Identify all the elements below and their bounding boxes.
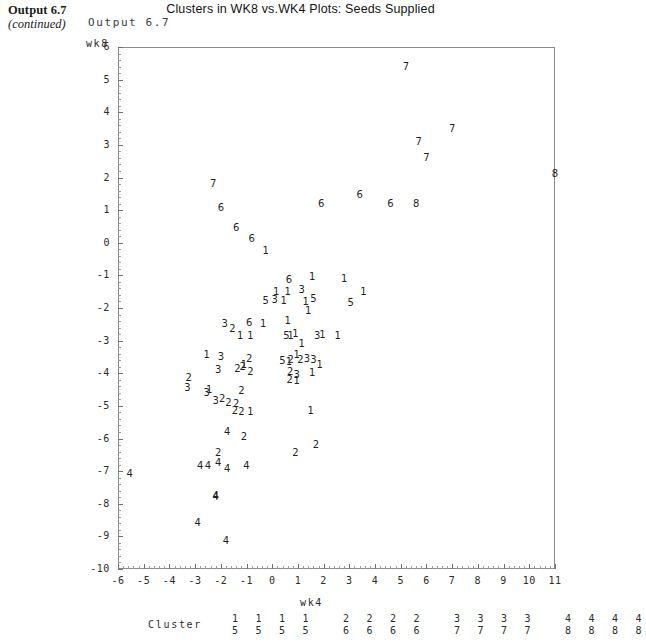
data-point: 6: [246, 318, 252, 328]
x-axis-minor-tick: [390, 566, 391, 569]
y-axis-minor-tick: [118, 367, 121, 368]
y-axis-minor-tick: [118, 217, 121, 218]
data-point: 1: [284, 316, 290, 326]
x-axis-minor-tick: [123, 566, 124, 569]
data-point: 3: [299, 285, 305, 295]
x-axis-minor-tick: [283, 566, 284, 569]
y-axis-minor-tick: [118, 223, 121, 224]
x-axis-tick: [349, 564, 350, 569]
data-point: 3: [310, 355, 316, 365]
y-axis-minor-tick: [118, 478, 121, 479]
x-axis-minor-tick: [185, 566, 186, 569]
y-axis-tick-label: 1: [78, 204, 110, 215]
x-axis-minor-tick: [509, 566, 510, 569]
y-axis-tick-label: -4: [78, 367, 110, 378]
data-point: 1: [335, 331, 341, 341]
cluster-legend-symbol-bottom: 8: [632, 625, 646, 637]
y-axis-minor-tick: [118, 204, 121, 205]
y-axis-minor-tick: [118, 132, 121, 133]
data-point: 1: [260, 319, 266, 329]
data-point: 1: [206, 385, 212, 395]
data-point: 1: [247, 331, 253, 341]
cluster-legend-entry: 15: [252, 613, 266, 637]
x-axis-tick-label: 0: [259, 575, 285, 586]
x-axis-tick-label: 5: [388, 575, 414, 586]
y-axis-minor-tick: [118, 106, 121, 107]
y-axis-minor-tick: [118, 393, 121, 394]
data-point: 1: [299, 339, 305, 349]
y-axis-minor-tick: [118, 184, 121, 185]
cluster-legend-symbol-top: 2: [410, 613, 424, 625]
cluster-legend-symbol-bottom: 6: [363, 625, 377, 637]
y-axis-tick: [118, 210, 123, 211]
cluster-legend-symbol-bottom: 6: [410, 625, 424, 637]
cluster-legend-symbol-bottom: 7: [474, 625, 488, 637]
y-axis-minor-tick: [118, 445, 121, 446]
x-axis-minor-tick: [288, 566, 289, 569]
x-axis-minor-tick: [360, 566, 361, 569]
y-axis-minor-tick: [118, 484, 121, 485]
x-axis-minor-tick: [365, 566, 366, 569]
x-axis-minor-tick: [303, 566, 304, 569]
x-axis-tick-label: 7: [439, 575, 465, 586]
y-axis-minor-tick: [118, 556, 121, 557]
y-axis-tick-label: 0: [78, 237, 110, 248]
data-point: 3: [221, 319, 227, 329]
x-axis-tick: [169, 564, 170, 569]
x-axis-minor-tick: [128, 566, 129, 569]
x-axis-minor-tick: [139, 566, 140, 569]
y-axis-minor-tick: [118, 510, 121, 511]
x-axis-tick: [452, 564, 453, 569]
data-point: 1: [308, 406, 314, 416]
y-axis-minor-tick: [118, 523, 121, 524]
y-axis-minor-tick: [118, 54, 121, 55]
cluster-legend-symbol-top: 3: [497, 613, 511, 625]
x-axis-minor-tick: [257, 566, 258, 569]
x-axis-minor-tick: [180, 566, 181, 569]
data-point: 2: [247, 367, 253, 377]
cluster-legend-symbol-top: 3: [474, 613, 488, 625]
y-axis-minor-tick: [118, 125, 121, 126]
x-axis-minor-tick: [493, 566, 494, 569]
x-axis-tick-label: 4: [362, 575, 388, 586]
y-axis-tick-label: -2: [78, 302, 110, 313]
data-point: 7: [403, 62, 409, 72]
data-point: 1: [237, 331, 243, 341]
x-axis-minor-tick: [524, 566, 525, 569]
y-axis-tick-label: 5: [78, 74, 110, 85]
data-point: 5: [279, 356, 285, 366]
x-axis-tick: [272, 564, 273, 569]
x-axis-tick: [401, 564, 402, 569]
x-axis-minor-tick: [483, 566, 484, 569]
y-axis-minor-tick: [118, 419, 121, 420]
data-point: 3: [184, 383, 190, 393]
data-point: 7: [416, 137, 422, 147]
y-axis-minor-tick: [118, 497, 121, 498]
data-point: 7: [449, 124, 455, 134]
x-axis-minor-tick: [334, 566, 335, 569]
x-axis-tick-label: 6: [413, 575, 439, 586]
y-axis-minor-tick: [118, 295, 121, 296]
x-axis-minor-tick: [339, 566, 340, 569]
y-axis-minor-tick: [118, 458, 121, 459]
cluster-legend-entry: 37: [474, 613, 488, 637]
x-axis-minor-tick: [329, 566, 330, 569]
data-point: 1: [309, 272, 315, 282]
data-point: 6: [233, 223, 239, 233]
cluster-legend-entry: 26: [386, 613, 400, 637]
x-axis-minor-tick: [540, 566, 541, 569]
y-axis-minor-tick: [118, 236, 121, 237]
cluster-legend-entry: 26: [339, 613, 353, 637]
x-axis-minor-tick: [442, 566, 443, 569]
y-axis-minor-tick: [118, 432, 121, 433]
x-axis-minor-tick: [416, 566, 417, 569]
data-point: 1: [263, 246, 269, 256]
y-axis-tick: [118, 569, 123, 570]
x-axis-minor-tick: [308, 566, 309, 569]
data-point: 1: [293, 376, 299, 386]
y-axis-minor-tick: [118, 452, 121, 453]
y-axis-tick: [118, 341, 123, 342]
y-axis-minor-tick: [118, 380, 121, 381]
data-point: 1: [341, 274, 347, 284]
x-axis-minor-tick: [262, 566, 263, 569]
